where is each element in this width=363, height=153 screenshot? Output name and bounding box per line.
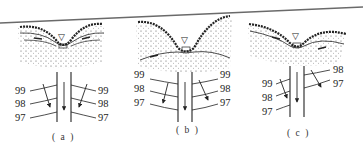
label-b-right-97: 97 — [220, 98, 231, 109]
label-a-right-98: 98 — [98, 99, 109, 110]
label-a-left-99: 99 — [15, 86, 26, 97]
label-b-left-99: 99 — [134, 70, 145, 81]
label-a-left-97: 97 — [15, 113, 26, 124]
label-b-right-99: 99 — [220, 70, 231, 81]
label-b-right-98: 98 — [220, 84, 231, 95]
water-table-symbol-a: ▽ — [58, 33, 65, 42]
caption-c: ( c ) — [287, 129, 310, 139]
water-table-symbol-c: ▽ — [292, 32, 299, 41]
label-b-left-97: 97 — [134, 98, 145, 109]
label-c-left-98: 98 — [262, 93, 273, 104]
label-c-right-97: 97 — [333, 79, 344, 90]
panel-b — [136, 16, 232, 122]
label-a-right-99: 99 — [98, 86, 109, 97]
water-table-symbol-b: ▽ — [181, 36, 188, 45]
page-edge-line — [0, 7, 363, 23]
label-a-left-98: 98 — [15, 99, 26, 110]
label-b-left-98: 98 — [134, 84, 145, 95]
caption-b: ( b ) — [176, 126, 199, 136]
label-a-right-97: 97 — [98, 113, 109, 124]
label-c-right-98: 98 — [333, 65, 344, 76]
label-c-left-97: 97 — [262, 107, 273, 118]
label-c-left-99: 99 — [262, 79, 273, 90]
caption-a: ( a ) — [52, 133, 75, 143]
figure-canvas: ▽ ▽ ▽ 99 98 97 99 98 97 ( a ) 99 98 97 9… — [0, 0, 363, 153]
